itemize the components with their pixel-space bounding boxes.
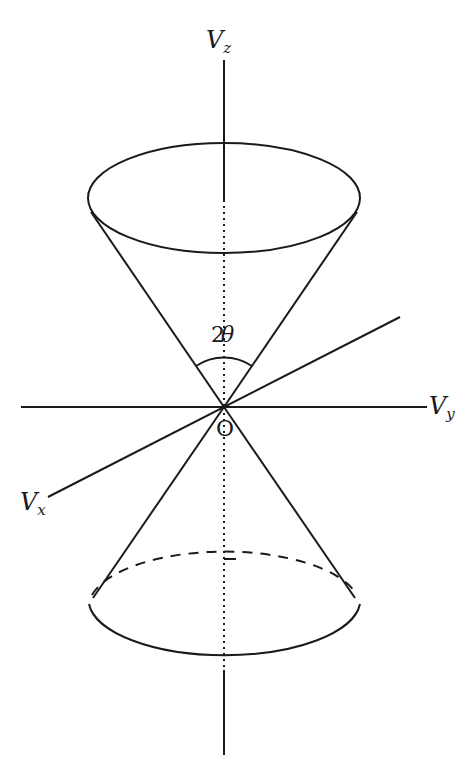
vy-label: Vy [429,394,455,422]
top-cone-right-generator [224,212,357,407]
vx-label: Vx [20,490,46,518]
origin-label: O [216,418,234,440]
cone-diagram [0,0,472,782]
top-cone-left-generator [91,212,224,407]
vz-label: Vz [206,28,231,56]
angle-arc [196,357,252,366]
bottom-cone-left-generator [93,407,224,598]
bottom-cone-right-generator [224,407,355,598]
angle-label: 2θ [211,324,234,346]
